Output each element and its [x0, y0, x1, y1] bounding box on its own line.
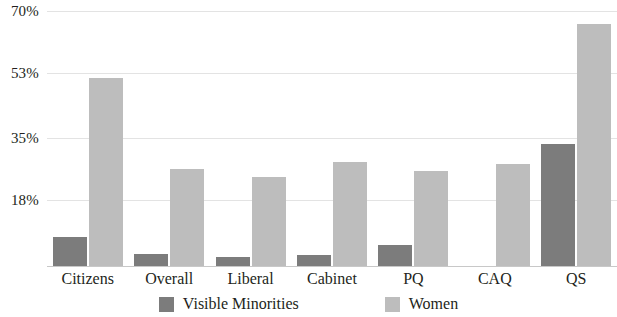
bars-layer	[47, 0, 617, 266]
x-tick-label: QS	[536, 268, 617, 292]
bar	[577, 24, 611, 266]
bar	[53, 237, 87, 266]
axis-baseline	[47, 266, 617, 267]
legend-swatch-icon	[159, 297, 174, 312]
legend-item-visible-minorities: Visible Minorities	[159, 295, 299, 313]
x-tick-label: Cabinet	[291, 268, 372, 292]
bar	[297, 255, 331, 266]
legend-item-women: Women	[385, 295, 458, 313]
bar	[89, 78, 123, 266]
plot-area	[47, 0, 617, 267]
bar-chart: 70% 53% 35% 18% CitizensOverallLiberalCa…	[0, 0, 617, 317]
bar-group	[128, 0, 209, 266]
x-axis: CitizensOverallLiberalCabinetPQCAQQS	[47, 268, 617, 292]
bar	[414, 171, 448, 266]
bar	[496, 164, 530, 266]
bar	[134, 254, 168, 266]
bar-group	[47, 0, 128, 266]
x-tick-label: Overall	[128, 268, 209, 292]
y-tick-label: 70%	[11, 3, 39, 18]
bar-group	[210, 0, 291, 266]
y-tick-label: 18%	[11, 193, 39, 208]
legend-swatch-icon	[385, 297, 400, 312]
legend-item-label: Visible Minorities	[183, 295, 299, 313]
x-tick-label: Liberal	[210, 268, 291, 292]
legend-item-label: Women	[409, 295, 458, 313]
bar	[541, 144, 575, 266]
x-tick-label: Citizens	[47, 268, 128, 292]
bar	[252, 177, 286, 266]
bar	[378, 245, 412, 266]
bar-group	[291, 0, 372, 266]
bar-group	[536, 0, 617, 266]
x-tick-label: CAQ	[454, 268, 535, 292]
x-tick-label: PQ	[373, 268, 454, 292]
y-tick-label: 53%	[11, 65, 39, 80]
bar	[170, 169, 204, 266]
bar-group	[454, 0, 535, 266]
chart-legend: Visible Minorities Women	[0, 291, 617, 317]
bar	[333, 162, 367, 266]
y-axis: 70% 53% 35% 18%	[0, 0, 47, 267]
y-tick-label: 35%	[11, 131, 39, 146]
bar	[216, 257, 250, 266]
bar-group	[373, 0, 454, 266]
